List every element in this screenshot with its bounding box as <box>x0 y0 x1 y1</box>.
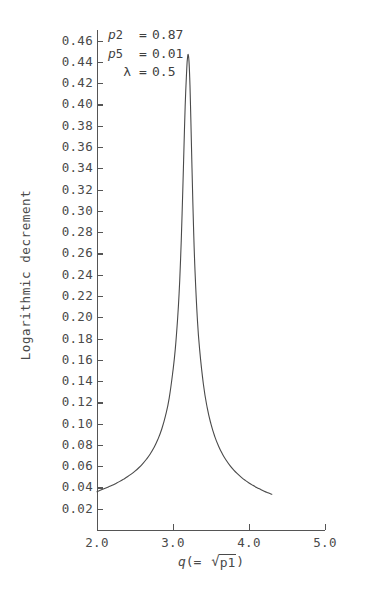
annotation-value: 0.01 <box>152 45 183 63</box>
annotation-subscript: 5 <box>116 47 123 61</box>
x-tick-mark <box>325 524 326 530</box>
y-tick-label: 0.30 <box>62 203 93 218</box>
y-tick-label: 0.26 <box>62 245 93 260</box>
y-tick-label: 0.06 <box>62 458 93 473</box>
y-tick-label: 0.28 <box>62 224 93 239</box>
x-axis-variable: q <box>178 554 186 569</box>
y-tick-label: 0.42 <box>62 75 93 90</box>
y-tick-label: 0.46 <box>62 33 93 48</box>
y-tick-label: 0.20 <box>62 309 93 324</box>
y-tick-label: 0.24 <box>62 267 93 282</box>
y-tick-label: 0.12 <box>62 394 93 409</box>
y-axis-title: Logarithmic decrement <box>18 175 33 375</box>
y-tick-label: 0.02 <box>62 501 93 516</box>
plot-area: 0.020.040.060.080.100.120.140.160.180.20… <box>97 30 325 530</box>
y-tick-label: 0.04 <box>62 479 93 494</box>
x-axis-line <box>97 530 325 531</box>
figure-plot: Logarithmic decrement 0.020.040.060.080.… <box>0 0 368 604</box>
annotation-symbol: p5 <box>108 45 134 64</box>
y-tick-label: 0.14 <box>62 373 93 388</box>
annotation-equals: = <box>134 45 152 63</box>
x-axis-close-paren: ) <box>236 554 244 569</box>
x-axis-radicand: p1 <box>219 554 237 570</box>
y-tick-label: 0.40 <box>62 96 93 111</box>
annotation-value: 0.5 <box>152 63 175 81</box>
y-tick-label: 0.08 <box>62 437 93 452</box>
x-axis-title: q(= √p1) <box>97 553 325 569</box>
x-tick-label: 3.0 <box>161 535 184 550</box>
annotation-subscript: 2 <box>116 28 123 42</box>
y-tick-label: 0.32 <box>62 182 93 197</box>
y-tick-label: 0.22 <box>62 288 93 303</box>
y-tick-label: 0.38 <box>62 118 93 133</box>
x-axis-open-paren: (= <box>186 554 202 569</box>
annotation-value: 0.87 <box>152 26 183 44</box>
annotation-row: λ=0.5 <box>108 63 183 81</box>
radical-icon: √p1 <box>209 553 236 569</box>
x-tick-label: 4.0 <box>237 535 260 550</box>
data-curve <box>97 30 325 530</box>
annotation-equals: = <box>134 63 152 81</box>
y-tick-label: 0.10 <box>62 416 93 431</box>
x-tick-label: 5.0 <box>313 535 336 550</box>
annotation-row: p5=0.01 <box>108 45 183 64</box>
annotation-symbol: λ <box>108 63 134 81</box>
x-tick-label: 2.0 <box>85 535 108 550</box>
annotation-symbol: p2 <box>108 26 134 45</box>
y-tick-label: 0.18 <box>62 331 93 346</box>
y-tick-label: 0.16 <box>62 352 93 367</box>
caption-strip <box>0 596 368 604</box>
annotation-equals: = <box>134 26 152 44</box>
annotation-row: p2=0.87 <box>108 26 183 45</box>
y-tick-label: 0.44 <box>62 54 93 69</box>
parameter-annotations: p2=0.87p5=0.01λ=0.5 <box>108 26 183 81</box>
y-tick-label: 0.36 <box>62 139 93 154</box>
y-tick-label: 0.34 <box>62 160 93 175</box>
